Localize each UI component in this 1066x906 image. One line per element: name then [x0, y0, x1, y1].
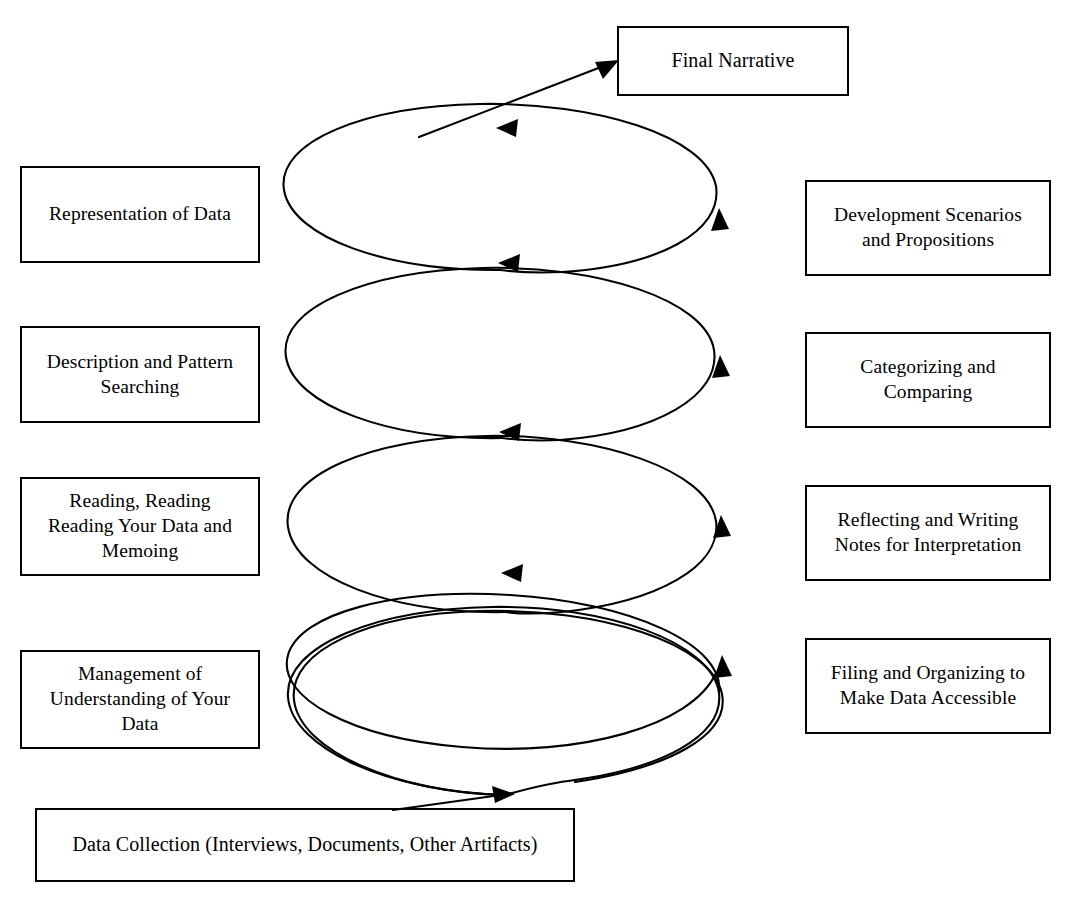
node-reflecting-and-writing-notes[interactable]: Reflecting and Writing Notes for Interpr…	[805, 485, 1051, 581]
node-final-narrative-label: Final Narrative	[671, 48, 794, 74]
node-filing-and-organizing[interactable]: Filing and Organizing to Make Data Acces…	[805, 638, 1051, 734]
arrowhead-top-loop-1	[501, 564, 523, 582]
node-reading-and-memoing[interactable]: Reading, Reading Reading Your Data and M…	[20, 477, 260, 576]
node-final-narrative[interactable]: Final Narrative	[617, 26, 849, 96]
spiral-strand-2b	[288, 436, 716, 612]
node-description-and-pattern-searching-label: Description and Pattern Searching	[47, 350, 233, 400]
spiral-link-2	[505, 521, 716, 614]
node-categorizing-and-comparing-label: Categorizing and Comparing	[860, 355, 995, 405]
spiral-loop-1	[294, 611, 723, 795]
spiral-link-3	[502, 350, 715, 440]
arrowhead-right-loop-1	[714, 655, 732, 678]
spiral-link-1	[505, 693, 719, 795]
node-development-scenarios-and-propositions[interactable]: Development Scenarios and Propositions	[805, 180, 1051, 276]
spiral-link-4	[500, 186, 717, 272]
arrowhead-spiral-entry	[492, 786, 515, 803]
node-filing-and-organizing-label: Filing and Organizing to Make Data Acces…	[831, 661, 1025, 711]
arrowhead-top-loop-2	[499, 423, 521, 441]
node-management-of-understanding-label: Management of Understanding of Your Data	[50, 662, 230, 737]
connector-final-narrative	[419, 62, 614, 137]
node-reflecting-and-writing-notes-label: Reflecting and Writing Notes for Interpr…	[835, 508, 1022, 558]
spiral-strand-1	[288, 607, 719, 795]
arrowhead-top-loop-3	[498, 254, 520, 272]
arrowhead-right-loop-4	[711, 208, 729, 231]
spiral-strand-4	[284, 104, 716, 270]
node-representation-of-data-label: Representation of Data	[49, 202, 231, 227]
arrowhead-top-loop-4	[496, 119, 518, 137]
arrowhead-right-loop-3	[712, 355, 730, 378]
spiral-graphic	[0, 0, 1066, 906]
arrowhead-final-narrative	[595, 60, 619, 79]
arrowhead-right-loop-2	[713, 515, 731, 538]
node-data-collection-label: Data Collection (Interviews, Documents, …	[73, 832, 538, 858]
node-description-and-pattern-searching[interactable]: Description and Pattern Searching	[20, 326, 260, 423]
node-reading-and-memoing-label: Reading, Reading Reading Your Data and M…	[48, 489, 232, 564]
spiral-strand-3b	[286, 268, 714, 438]
spiral-loop-1-tail	[575, 718, 720, 782]
node-representation-of-data[interactable]: Representation of Data	[20, 166, 260, 263]
diagram-canvas: Final Narrative Representation of Data D…	[0, 0, 1066, 906]
node-development-scenarios-and-propositions-label: Development Scenarios and Propositions	[834, 203, 1022, 253]
node-management-of-understanding[interactable]: Management of Understanding of Your Data	[20, 650, 260, 749]
spiral-strand-2	[287, 594, 720, 749]
node-data-collection[interactable]: Data Collection (Interviews, Documents, …	[35, 808, 575, 882]
node-categorizing-and-comparing[interactable]: Categorizing and Comparing	[805, 332, 1051, 428]
